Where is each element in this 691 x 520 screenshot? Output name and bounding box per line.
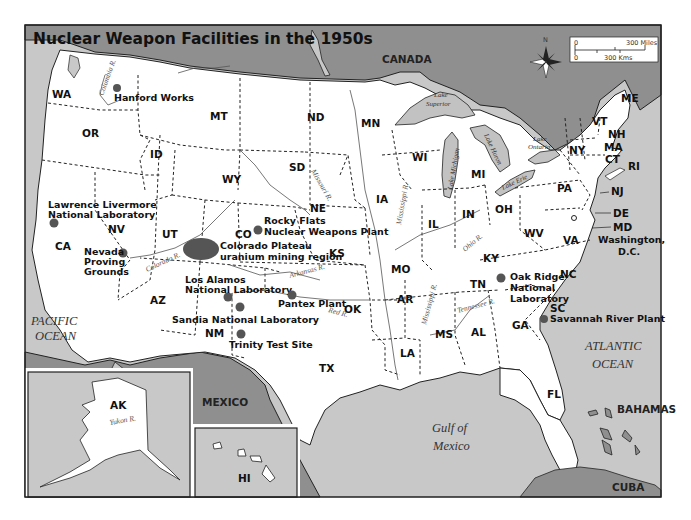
state-label-ut: UT — [162, 228, 179, 240]
label-washington-dc-2: D.C. — [618, 246, 640, 257]
site-label-hanford: Hanford Works — [114, 92, 194, 103]
site-label-oak-ridge-1: Oak Ridge — [510, 271, 565, 282]
state-label-ms: MS — [435, 328, 453, 340]
scale-miles-zero: 0 — [574, 39, 578, 47]
label-lake-ontario-2: Ontario — [528, 143, 551, 151]
site-label-pantex: Pantex Plant — [278, 298, 347, 309]
state-label-oh: OH — [495, 203, 513, 215]
site-label-rocky-flats-2: Nuclear Weapons Plant — [264, 226, 389, 237]
site-marker-sandia[interactable] — [236, 303, 245, 312]
state-label-tx: TX — [319, 362, 334, 374]
label-bahamas: BAHAMAS — [617, 403, 676, 415]
washington-dc-marker[interactable] — [572, 216, 577, 221]
site-label-nevada-3: Grounds — [84, 266, 129, 277]
state-label-pa: PA — [557, 182, 573, 194]
site-marker-hanford[interactable] — [113, 84, 121, 92]
state-label-ny: NY — [569, 144, 586, 156]
site-label-sandia: Sandia National Laboratory — [172, 314, 320, 325]
state-label-az: AZ — [150, 294, 166, 306]
label-atlantic-2: OCEAN — [592, 357, 634, 371]
state-label-ct: CT — [605, 153, 621, 165]
site-marker-rocky-flats[interactable] — [254, 226, 263, 235]
state-label-ia: IA — [376, 193, 389, 205]
state-label-mn: MN — [361, 117, 380, 129]
site-label-trinity: Trinity Test Site — [229, 339, 313, 350]
state-label-nm: NM — [205, 327, 224, 339]
state-label-fl: FL — [547, 388, 561, 400]
scale-km-zero: 0 — [574, 54, 578, 62]
compass-north-label: N — [543, 36, 548, 44]
label-canada: CANADA — [382, 53, 432, 65]
state-label-md: MD — [613, 221, 632, 233]
nuclear-facilities-map: Nuclear Weapon Facilities in the 1950s C… — [0, 0, 691, 520]
scale-km-label: 300 Kms — [604, 54, 633, 62]
label-lake-ontario-1: Lake — [532, 135, 547, 143]
state-label-wi: WI — [412, 151, 428, 163]
state-label-ca: CA — [55, 240, 72, 252]
state-label-ga: GA — [512, 319, 530, 331]
site-label-savannah-river: Savannah River Plant — [550, 313, 665, 324]
state-label-mi: MI — [471, 168, 485, 180]
state-label-ky: KY — [483, 252, 499, 264]
label-gulf-1: Gulf of — [432, 421, 469, 435]
state-label-nv: NV — [108, 223, 126, 235]
site-marker-savannah-river[interactable] — [540, 315, 548, 323]
site-marker-oak-ridge[interactable] — [497, 274, 506, 283]
state-label-vt: VT — [592, 115, 608, 127]
state-label-la: LA — [400, 347, 416, 359]
state-label-ok: OK — [344, 303, 362, 315]
label-atlantic-1: ATLANTIC — [584, 339, 642, 353]
state-label-co: CO — [235, 228, 252, 240]
site-label-colorado-plateau-1: Colorado Plateau — [220, 240, 312, 251]
scale-miles-label: 300 Miles — [626, 39, 658, 47]
state-label-or: OR — [82, 127, 99, 139]
label-cuba: CUBA — [612, 481, 645, 493]
state-label-id: ID — [150, 148, 163, 160]
site-label-rocky-flats-1: Rocky Flats — [264, 215, 326, 226]
site-marker-trinity[interactable] — [237, 330, 246, 339]
state-label-ma: MA — [604, 141, 623, 153]
label-mexico: MEXICO — [202, 396, 248, 408]
state-label-nh: NH — [608, 128, 626, 140]
state-label-mt: MT — [210, 110, 228, 122]
state-label-al: AL — [471, 326, 486, 338]
hawaii-inset — [192, 424, 300, 497]
state-label-hi: HI — [238, 472, 251, 484]
state-label-nj: NJ — [611, 185, 624, 197]
state-label-il: IL — [428, 218, 439, 230]
state-label-de: DE — [613, 207, 629, 219]
state-label-in: IN — [462, 208, 475, 220]
site-label-los-alamos-2: National Laboratory — [185, 284, 293, 295]
state-label-wa: WA — [52, 88, 72, 100]
state-label-nd: ND — [307, 111, 325, 123]
state-label-ri: RI — [628, 160, 640, 172]
label-pacific-2: OCEAN — [35, 329, 77, 343]
state-label-ne: NE — [310, 202, 326, 214]
state-label-wv: WV — [524, 227, 545, 239]
label-lake-superior-2: Superior — [426, 100, 451, 108]
site-marker-colorado-plateau[interactable] — [183, 238, 219, 260]
label-pacific-1: PACIFIC — [30, 314, 78, 328]
state-label-ak: AK — [110, 399, 127, 411]
state-label-sd: SD — [289, 161, 306, 173]
state-label-me: ME — [621, 92, 639, 104]
map-title: Nuclear Weapon Facilities in the 1950s — [33, 30, 373, 48]
site-label-livermore-2: National Laboratory — [48, 209, 156, 220]
site-label-oak-ridge-2: National — [510, 282, 555, 293]
scale-bar: 0 300 Miles 0 300 Kms — [570, 37, 658, 62]
state-label-mo: MO — [391, 263, 410, 275]
site-label-colorado-plateau-2: uranium mining region — [220, 251, 343, 262]
state-label-ar: AR — [397, 293, 413, 305]
state-label-wy: WY — [222, 173, 242, 185]
alaska-inset — [25, 368, 193, 497]
state-label-va: VA — [563, 234, 579, 246]
label-washington-dc-1: Washington, — [598, 234, 665, 245]
label-lake-superior-1: Lake — [433, 91, 448, 99]
state-label-tn: TN — [470, 278, 486, 290]
label-gulf-2: Mexico — [432, 439, 470, 453]
site-label-oak-ridge-3: Laboratory — [510, 293, 570, 304]
